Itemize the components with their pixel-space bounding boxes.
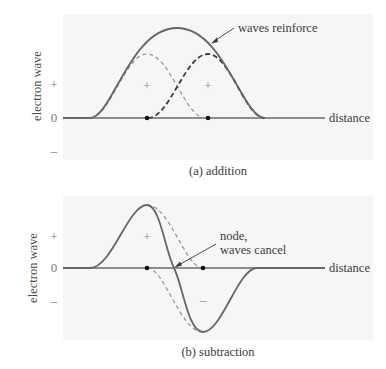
panel-a-tick-plus: + — [50, 77, 57, 92]
panel-a-tick-minus: – — [50, 143, 58, 158]
panel-addition: electron wave + 0 – distance + + waves — [30, 14, 373, 178]
panel-b-tick-zero: 0 — [51, 260, 58, 275]
panel-b-node-label-line1: node, — [220, 229, 247, 243]
panel-a-annotation-label: waves reinforce — [238, 21, 318, 35]
panel-a-nucleus-dot-right — [206, 116, 211, 121]
panel-b-nucleus-dot-left — [145, 266, 150, 271]
panel-b-tick-minus: – — [50, 293, 58, 308]
panel-b-y-axis-label: electron wave — [26, 233, 40, 303]
panel-subtraction: electron wave + 0 – distance + – node, — [26, 196, 373, 359]
panel-a-background — [63, 14, 373, 160]
panel-a-tick-zero: 0 — [51, 110, 58, 125]
panel-b-nucleus-dot-right — [201, 266, 206, 271]
panel-b-x-axis-label: distance — [329, 261, 370, 275]
panel-b-caption: (b) subtraction — [181, 345, 255, 359]
panel-b-tick-plus: + — [50, 229, 57, 244]
panel-a-sign-left: + — [143, 78, 150, 93]
wave-interference-figure: electron wave + 0 – distance + + waves — [0, 0, 386, 369]
panel-a-nucleus-dot-left — [145, 116, 150, 121]
panel-b-sign-negative: – — [199, 292, 207, 307]
panel-a-x-axis-label: distance — [329, 111, 370, 125]
panel-a-y-axis-label: electron wave — [30, 51, 44, 121]
panel-b-sign-positive: + — [143, 229, 150, 244]
panel-a-sign-right: + — [204, 78, 211, 93]
panel-b-node-label-line2: waves cancel — [220, 243, 287, 257]
panel-a-caption: (a) addition — [189, 164, 248, 178]
